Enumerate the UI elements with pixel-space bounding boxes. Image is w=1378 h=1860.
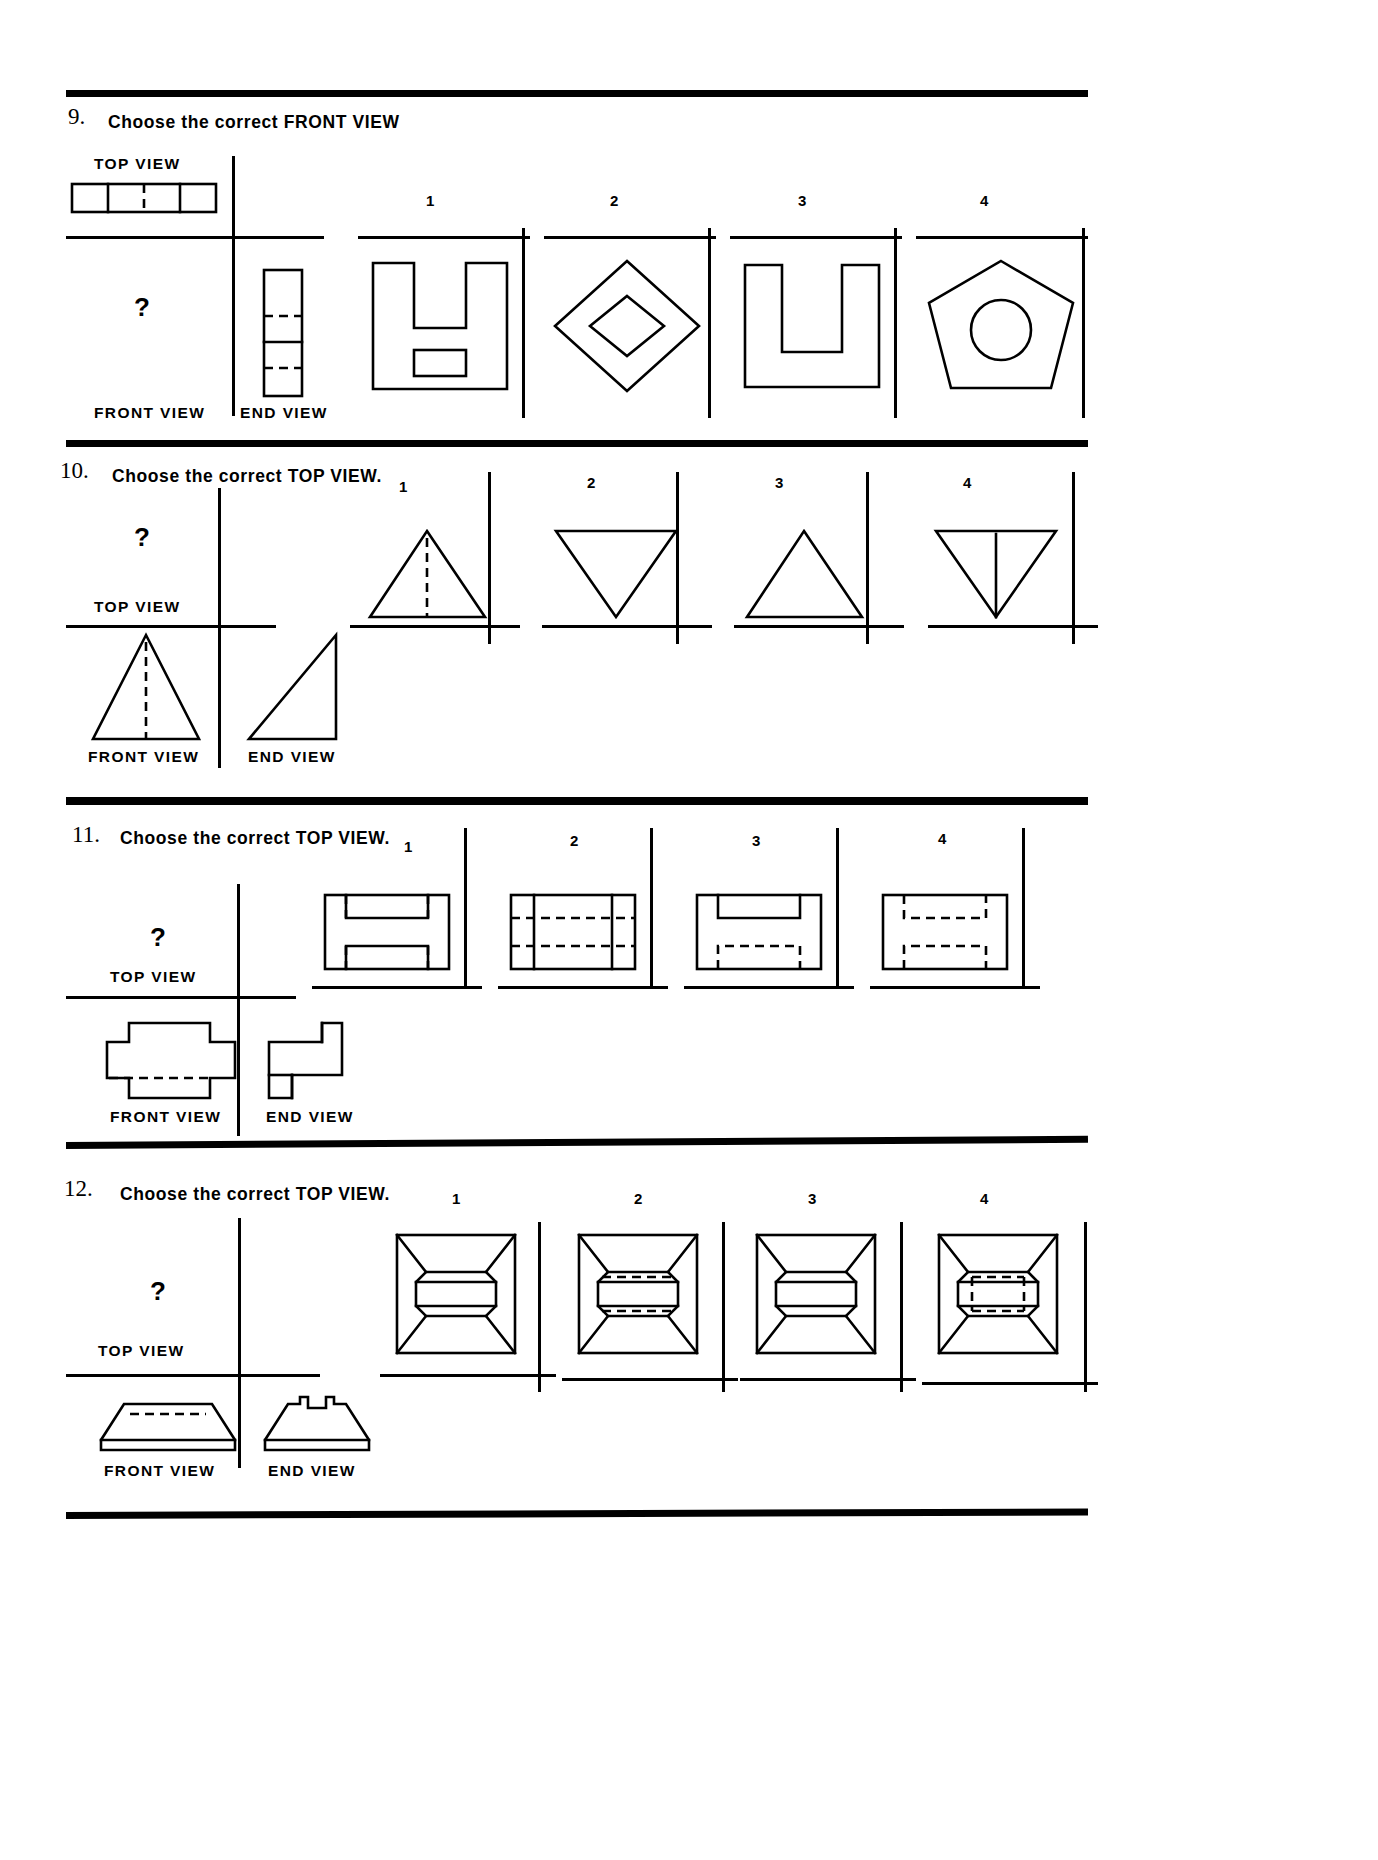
q12-option-3-shape[interactable] [754, 1232, 878, 1356]
section-divider-top [66, 90, 1088, 97]
q9-option-3-shape[interactable] [742, 262, 882, 390]
q10-option-2-baseline [542, 625, 712, 628]
q9-option-1-baseline [358, 236, 530, 239]
q12-front-view-label: FRONT VIEW [104, 1462, 215, 1480]
question-11-number: 11. [72, 822, 100, 848]
q10-given-end-view-shape [244, 632, 342, 742]
q12-option-1-shape[interactable] [394, 1232, 518, 1356]
question-12-number: 12. [64, 1176, 93, 1202]
q9-option-2-number[interactable]: 2 [610, 192, 618, 209]
question-9-number: 9. [68, 104, 85, 130]
question-12-prompt: Choose the correct TOP VIEW. [120, 1184, 390, 1205]
q11-option-4-baseline [870, 986, 1040, 989]
q12-option-2-number[interactable]: 2 [634, 1190, 642, 1207]
q9-option-1-number[interactable]: 1 [426, 192, 434, 209]
q12-option-2-divider [722, 1222, 725, 1392]
q10-front-view-label: FRONT VIEW [88, 748, 199, 766]
q10-option-3-number[interactable]: 3 [775, 474, 783, 491]
q12-option-3-divider [900, 1222, 903, 1392]
section-divider-bottom [66, 1508, 1088, 1519]
q11-option-4-shape[interactable] [880, 892, 1010, 972]
q11-option-2-shape[interactable] [508, 892, 638, 972]
q11-front-view-label: FRONT VIEW [110, 1108, 221, 1126]
q10-option-2-number[interactable]: 2 [587, 474, 595, 491]
q9-option-4-divider [1082, 228, 1085, 418]
q10-option-1-number[interactable]: 1 [399, 478, 407, 495]
q9-option-4-number[interactable]: 4 [980, 192, 988, 209]
q11-option-3-divider [836, 828, 839, 988]
q9-top-view-label: TOP VIEW [94, 155, 180, 173]
q12-option-2-shape[interactable] [576, 1232, 700, 1356]
q11-option-2-divider [650, 828, 653, 988]
section-divider-9-10 [66, 440, 1088, 447]
q9-given-vertical-axis [232, 156, 235, 416]
q10-option-4-shape[interactable] [932, 528, 1060, 620]
q12-option-1-divider [538, 1222, 541, 1392]
q10-given-vertical-axis [218, 488, 221, 768]
q9-option-3-divider [894, 228, 897, 418]
q12-option-1-number[interactable]: 1 [452, 1190, 460, 1207]
q11-option-3-baseline [684, 986, 854, 989]
q11-option-1-number[interactable]: 1 [404, 838, 412, 855]
q11-option-4-number[interactable]: 4 [938, 830, 946, 847]
q10-end-view-label: END VIEW [248, 748, 336, 766]
q9-option-2-baseline [544, 236, 716, 239]
q11-option-3-number[interactable]: 3 [752, 832, 760, 849]
q12-unknown-marker: ? [150, 1276, 166, 1307]
q9-option-3-number[interactable]: 3 [798, 192, 806, 209]
q11-given-end-view-shape [266, 1020, 346, 1102]
q9-option-3-baseline [730, 236, 902, 239]
q10-option-3-baseline [734, 625, 904, 628]
q12-option-3-number[interactable]: 3 [808, 1190, 816, 1207]
question-10-number: 10. [60, 458, 89, 484]
q10-top-view-label: TOP VIEW [94, 598, 180, 616]
q11-end-view-label: END VIEW [266, 1108, 354, 1126]
q10-given-front-view-shape [86, 632, 206, 742]
q12-option-4-shape[interactable] [936, 1232, 1060, 1356]
section-divider-11-12 [66, 1136, 1088, 1149]
q11-unknown-marker: ? [150, 922, 166, 953]
q9-option-4-baseline [916, 236, 1088, 239]
q11-option-1-baseline [312, 986, 482, 989]
q12-given-front-view-shape [98, 1398, 238, 1454]
q9-front-view-label: FRONT VIEW [94, 404, 205, 422]
q12-option-4-baseline [922, 1382, 1098, 1385]
q9-unknown-marker: ? [134, 292, 150, 323]
q9-given-horizontal-axis [66, 236, 324, 239]
q10-option-2-shape[interactable] [552, 528, 680, 620]
q9-option-1-divider [522, 228, 525, 418]
q12-option-4-number[interactable]: 4 [980, 1190, 988, 1207]
q12-given-horizontal-axis [66, 1374, 320, 1377]
q12-given-vertical-axis [238, 1218, 241, 1468]
q10-option-3-shape[interactable] [742, 528, 867, 620]
q9-option-2-shape[interactable] [552, 258, 702, 394]
q11-option-2-baseline [498, 986, 668, 989]
worksheet-page: 9. Choose the correct FRONT VIEW TOP VIE… [0, 0, 1378, 1860]
q9-given-end-view-shape [262, 268, 306, 398]
q11-option-1-shape[interactable] [322, 892, 452, 972]
q10-given-horizontal-axis [66, 625, 276, 628]
q10-option-1-baseline [350, 625, 520, 628]
q11-option-3-shape[interactable] [694, 892, 824, 972]
q12-option-3-baseline [740, 1378, 916, 1381]
q9-option-2-divider [708, 228, 711, 418]
q12-option-4-divider [1084, 1222, 1087, 1392]
q11-option-4-divider [1022, 828, 1025, 988]
q11-top-view-label: TOP VIEW [110, 968, 196, 986]
q11-given-front-view-shape [104, 1020, 240, 1102]
q11-option-1-divider [464, 828, 467, 988]
q10-unknown-marker: ? [134, 522, 150, 553]
q9-end-view-label: END VIEW [240, 404, 328, 422]
q11-option-2-number[interactable]: 2 [570, 832, 578, 849]
q12-option-2-baseline [562, 1378, 738, 1381]
question-9-prompt: Choose the correct FRONT VIEW [108, 112, 400, 133]
q9-option-4-shape[interactable] [926, 258, 1076, 394]
section-divider-10-11 [66, 797, 1088, 805]
q12-given-end-view-shape [262, 1394, 372, 1454]
q11-given-horizontal-axis [66, 996, 296, 999]
q9-option-1-shape[interactable] [370, 260, 510, 392]
question-10-prompt: Choose the correct TOP VIEW. [112, 466, 382, 487]
q10-option-4-number[interactable]: 4 [963, 474, 971, 491]
q10-option-1-shape[interactable] [365, 528, 490, 620]
q12-top-view-label: TOP VIEW [98, 1342, 184, 1360]
